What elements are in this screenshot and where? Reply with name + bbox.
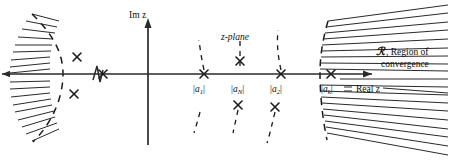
pole-marker-aN-lower: [234, 101, 242, 109]
real-axis-label: Real z: [356, 84, 380, 94]
left-hatched-region: [10, 14, 63, 142]
pole-label-ak: |ak|: [321, 84, 333, 95]
poles-group: [70, 53, 335, 111]
imaginary-axis-label: Im z: [129, 10, 146, 20]
pole-stem-a2-lower: [267, 112, 275, 143]
pole-stem-a1-lower: [194, 112, 200, 133]
real-axis-arrowhead: [363, 71, 372, 78]
pole-label-aN: |aN|: [231, 84, 244, 95]
axis-break-zigzag: [93, 66, 103, 82]
labels-group: Im z z-plane |a1| |aN| |a2| |ak| Real z …: [129, 10, 429, 95]
zplane-figure: Im z z-plane |a1| |aN| |a2| |ak| Real z …: [0, 0, 451, 163]
z-plane-label: z-plane: [220, 32, 249, 42]
real-axis-left-arrowhead: [2, 71, 10, 77]
pole-stem-aN-lower: [233, 110, 238, 133]
pole-marker-upper-left: [73, 53, 81, 61]
pole-label-a1: |a1|: [193, 84, 205, 95]
left-hatch-lines: [10, 14, 59, 141]
right-hatched-region: [320, 5, 448, 155]
roc-symbol: ℛ: [376, 45, 386, 57]
right-hatch-lines: [320, 5, 448, 155]
zplane-diagram: Im z z-plane |a1| |aN| |a2| |ak| Real z …: [0, 0, 451, 163]
pole-marker-a2-lower: [271, 103, 279, 111]
roc-label-line1: , Region of: [386, 47, 429, 57]
pole-marker-lower-left: [70, 90, 78, 98]
pole-label-a2: |a2|: [270, 84, 282, 95]
pole-stem-a2-upper: [277, 30, 281, 70]
pole-stem-a1-upper: [199, 40, 204, 70]
roc-label-line2: convergence: [381, 59, 429, 69]
axes-group: [2, 18, 372, 145]
